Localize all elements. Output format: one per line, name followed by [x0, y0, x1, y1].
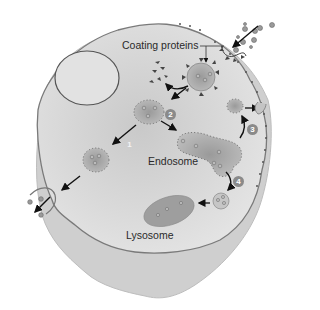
- step-2-badge: 2: [165, 109, 176, 120]
- label-endosome: Endosome: [148, 156, 198, 167]
- nucleus-icon: [55, 51, 119, 105]
- label-coating-proteins: Coating proteins: [122, 40, 198, 51]
- step-1-badge: 1: [124, 139, 135, 150]
- uncoated-vesicle: [134, 100, 164, 124]
- step-3-badge: 3: [247, 124, 258, 135]
- transcytosis-vesicle: [83, 148, 109, 172]
- label-lysosome: Lysosome: [126, 230, 173, 241]
- transport-vesicle: [213, 193, 229, 209]
- recycling-vesicle: [227, 99, 243, 113]
- step-4-badge: 4: [233, 176, 244, 187]
- particle-icon: [234, 23, 275, 53]
